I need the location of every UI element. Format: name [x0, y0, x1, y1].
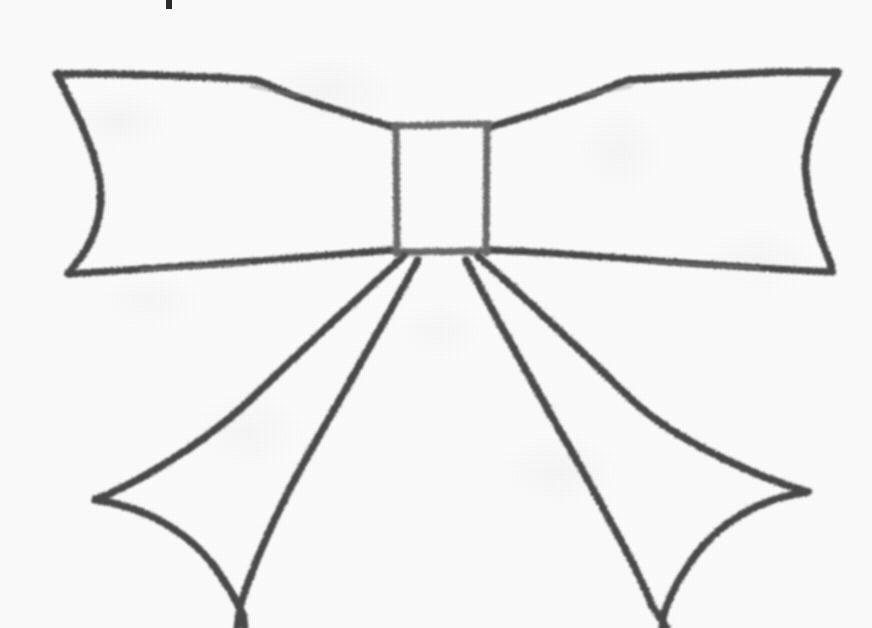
- right-loop-group: [490, 72, 838, 272]
- knot-bottom-edge: [395, 251, 488, 252]
- scan-stroke-artifacts: [140, 86, 760, 270]
- right-tail-group: [466, 256, 808, 628]
- right-loop-top-edge: [490, 72, 838, 127]
- left-tail-inner-edge: [240, 260, 418, 606]
- left-tail-outer-edge: [95, 256, 404, 500]
- left-loop-group: [57, 74, 393, 274]
- left-loop-outer-edge: [57, 74, 101, 274]
- right-tail-tip-curve: [664, 492, 808, 614]
- scanned-document-page: |: [0, 0, 872, 628]
- bow-line-drawing: [0, 0, 872, 628]
- knot-right-edge: [486, 124, 487, 253]
- left-tail-inner-stub: [237, 606, 240, 628]
- cropped-text-fragment: |: [166, 0, 172, 9]
- knot-left-edge: [396, 125, 397, 254]
- knot-top-edge: [394, 124, 489, 126]
- left-tail-tip-curve: [95, 500, 243, 616]
- left-loop-top-edge: [57, 74, 393, 127]
- right-loop-outer-edge: [805, 72, 838, 272]
- right-tail-inner-edge: [466, 260, 652, 606]
- left-loop-bottom-edge: [68, 250, 393, 274]
- left-tail-group: [95, 256, 418, 628]
- left-tail-tip-stub: [243, 614, 245, 628]
- center-knot-group: [394, 124, 489, 254]
